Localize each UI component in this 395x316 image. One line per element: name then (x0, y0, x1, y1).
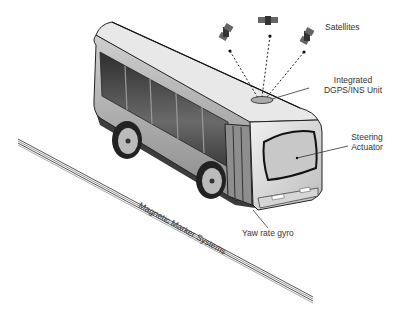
yaw-gyro-label: Yaw rate gyro (242, 228, 294, 238)
dgps-label-line1: Integrated (318, 75, 388, 85)
front-wheel (196, 161, 226, 199)
bus-icon (94, 22, 322, 210)
satellite-icon (258, 16, 278, 25)
dgps-label: Integrated DGPS/INS Unit (318, 75, 388, 95)
steering-label-line2: Actuator (344, 142, 390, 152)
dgps-label-line2: DGPS/INS Unit (318, 85, 388, 95)
dgps-unit (251, 97, 273, 104)
satellites-label: Satellites (325, 22, 360, 32)
diagram-canvas (0, 0, 395, 316)
steering-label-line1: Steering (344, 132, 390, 142)
steering-label: Steering Actuator (344, 132, 390, 152)
bus-diagram: Satellites Integrated DGPS/INS Unit Stee… (0, 0, 395, 316)
satellite-icon (300, 27, 315, 45)
rear-wheel (112, 121, 142, 159)
satellite-icon (219, 23, 234, 41)
